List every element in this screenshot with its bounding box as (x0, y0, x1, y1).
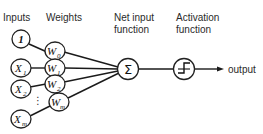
svg-text:X: X (13, 113, 22, 125)
weight-node-w2: W 2 (45, 75, 65, 93)
input-node-x1: X 1 (11, 59, 31, 77)
ellipsis-vertical-icon: ⋮ (33, 95, 43, 106)
edge-weight1-sum (65, 68, 118, 69)
svg-text:2: 2 (23, 90, 27, 98)
svg-text:2: 2 (57, 85, 61, 93)
edge-weightm-sum (68, 73, 119, 98)
edge-weight2-sum (64, 71, 118, 82)
input-node-bias: 1 (12, 30, 30, 48)
svg-text:X: X (14, 62, 23, 74)
weight-node-w0: W 0 (45, 42, 65, 60)
activation-function-node (174, 59, 195, 80)
edge-input0-weight0 (29, 44, 47, 52)
svg-text:X: X (14, 83, 23, 95)
sigma-icon: Σ (124, 62, 132, 77)
svg-text:1: 1 (23, 69, 27, 77)
edge-inputm-weightm (30, 106, 50, 116)
edge-input2-weight2 (30, 84, 46, 87)
weight-node-w1: W 1 (45, 59, 65, 77)
svg-text:W: W (47, 78, 57, 90)
edge-weight0-sum (64, 52, 118, 67)
net-input-sum-node: Σ (118, 59, 139, 80)
activation-header-line2: function (176, 24, 211, 35)
net-input-header-line1: Net input (114, 12, 154, 23)
svg-text:W: W (47, 62, 57, 74)
svg-text:m: m (60, 103, 65, 111)
weight-node-wm: W m (49, 93, 69, 111)
activation-header-line1: Activation (176, 12, 219, 23)
net-input-header-line2: function (114, 24, 149, 35)
svg-text:m: m (22, 120, 27, 128)
output-label: output (228, 64, 256, 75)
inputs-header: Inputs (3, 12, 30, 23)
input-node-xm: X m (11, 110, 31, 128)
perceptron-diagram: Inputs Weights Net input function Activa… (0, 0, 263, 134)
weights-header: Weights (46, 12, 82, 23)
input-node-x2: X 2 (11, 80, 31, 98)
arrowhead-icon (217, 67, 224, 72)
svg-text:W: W (47, 45, 57, 57)
svg-text:1: 1 (18, 33, 24, 45)
